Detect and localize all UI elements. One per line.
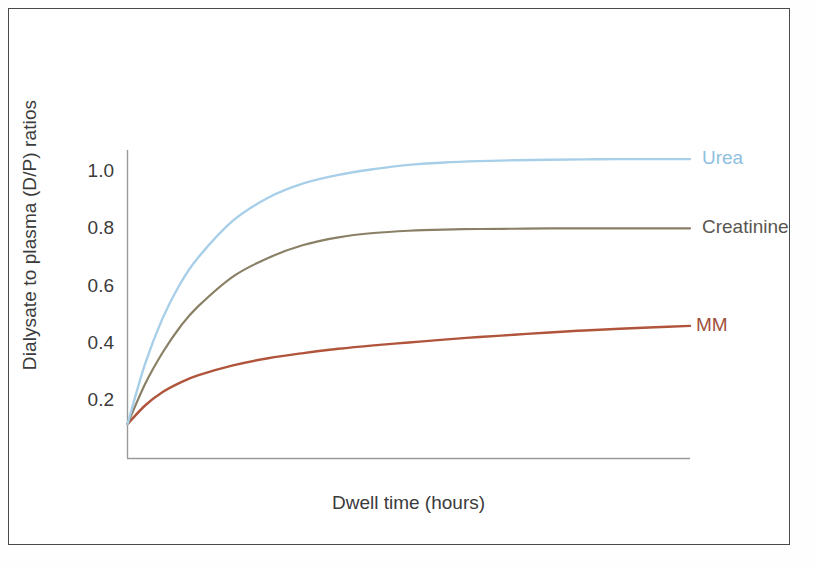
chart-plot-area <box>0 0 816 569</box>
x-axis-title-text: Dwell time (hours) <box>332 492 485 513</box>
figure-container: Dialysate to plasma (D/P) ratios Dwell t… <box>0 0 816 569</box>
series-line-creatinine <box>128 228 691 424</box>
x-axis-title: Dwell time (hours) <box>127 492 690 514</box>
series-line-mm <box>128 326 691 424</box>
series-line-urea <box>128 159 691 424</box>
